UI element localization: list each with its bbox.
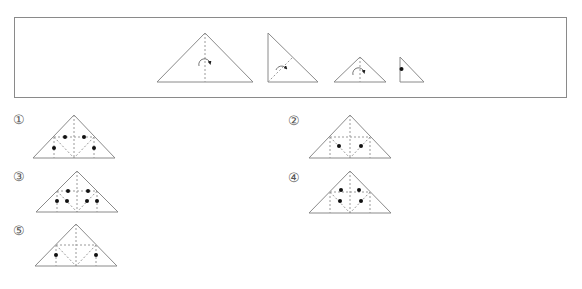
option-2-diagram[interactable] [309,115,391,158]
fold-arrow-icon [353,68,364,75]
fold-step-3 [334,57,386,82]
fold-arrow-icon [276,66,286,70]
punch-hole-dot [400,67,404,71]
diagram-canvas [0,0,582,289]
fold-step-2 [268,33,318,82]
option-2-label[interactable]: ② [288,114,300,127]
option-1-diagram[interactable] [33,115,115,158]
option-1-label[interactable]: ① [13,113,25,126]
option-5-diagram[interactable] [35,224,117,266]
fold-arrow-icon [199,59,210,66]
option-4-diagram[interactable] [309,171,391,213]
option-5-label[interactable]: ⑤ [13,224,25,237]
fold-step-1 [157,33,253,82]
fold-step-4 [400,57,425,82]
option-3-label[interactable]: ③ [13,170,25,183]
option-3-diagram[interactable] [36,171,118,212]
option-4-label[interactable]: ④ [288,171,300,184]
